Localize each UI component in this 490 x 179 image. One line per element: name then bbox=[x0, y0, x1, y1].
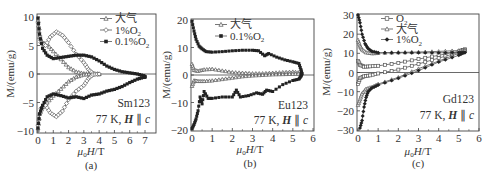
legend-item: 1%O2 bbox=[381, 33, 423, 48]
chart-panel-b: 012345620100−10−20 大气0.1%O2 Eu123 77 K, … bbox=[160, 14, 316, 170]
panel-label-b: (b) bbox=[244, 157, 257, 170]
legend-label: 大气 bbox=[230, 17, 252, 30]
y-tick-label: −10 bbox=[337, 86, 355, 98]
x-tick-label: 5 bbox=[290, 132, 296, 144]
x-tick-label: 1 bbox=[51, 134, 57, 146]
x-tick-label: 2 bbox=[230, 132, 236, 144]
sample-label-a: Sm123 bbox=[117, 97, 150, 109]
sample-label-b: Eu123 bbox=[278, 99, 308, 111]
x-axis-label-a: μ0H/T bbox=[77, 145, 105, 159]
y-tick-label: −5 bbox=[22, 97, 34, 109]
legend-label: 1%O2 bbox=[396, 33, 423, 48]
chart-panel-a: 012345671050−5−10 大气1%O20.1%O2 Sm123 77 … bbox=[4, 11, 156, 172]
sample-label-c: Gd123 bbox=[443, 93, 475, 105]
x-axis-label-b: μ0H/T bbox=[236, 143, 264, 157]
legend-item: 0.1%O2 bbox=[100, 35, 150, 50]
legend-label: 0.1%O2 bbox=[115, 35, 150, 50]
y-tick-label: −20 bbox=[171, 124, 189, 136]
y-tick-label: 0 bbox=[349, 67, 355, 79]
y-tick-label: 20 bbox=[343, 28, 355, 40]
y-tick-label: −10 bbox=[17, 125, 35, 137]
y-tick-label: 30 bbox=[343, 9, 355, 21]
x-tick-label: 6 bbox=[310, 132, 316, 144]
x-tick-label: 1 bbox=[209, 132, 215, 144]
x-tick-label: 0 bbox=[189, 132, 195, 144]
condition-label-b: 77 K, H ∥ c bbox=[254, 114, 308, 127]
x-tick-label: 0 bbox=[355, 132, 361, 144]
y-tick-label: −10 bbox=[171, 97, 189, 109]
y-tick-label: 20 bbox=[177, 14, 189, 26]
y-axis-label-a: M/(emu/g) bbox=[4, 50, 17, 98]
legend-b: 大气0.1%O2 bbox=[215, 17, 265, 44]
x-tick-label: 4 bbox=[436, 132, 442, 144]
legend-a: 大气1%O20.1%O2 bbox=[100, 11, 150, 50]
panel-label-a: (a) bbox=[85, 159, 98, 172]
x-tick-label: 4 bbox=[270, 132, 276, 144]
chart-panel-c: 01234563020100−10−20−30 O2大气1%O2 Gd123 7… bbox=[320, 9, 482, 170]
x-tick-label: 3 bbox=[416, 132, 422, 144]
legend-label: 大气 bbox=[115, 11, 137, 24]
y-axis-label-c: M/(emu/g) bbox=[320, 48, 333, 96]
y-tick-label: 0 bbox=[29, 68, 35, 80]
figure-canvas: 012345671050−5−10 大气1%O20.1%O2 Sm123 77 … bbox=[0, 0, 490, 179]
x-tick-label: 5 bbox=[112, 134, 118, 146]
x-tick-label: 2 bbox=[66, 134, 72, 146]
x-tick-label: 1 bbox=[375, 132, 381, 144]
legend-c: O2大气1%O2 bbox=[381, 12, 423, 48]
y-tick-label: 10 bbox=[177, 42, 189, 54]
y-tick-label: 0 bbox=[183, 69, 189, 81]
y-tick-label: 10 bbox=[23, 11, 35, 23]
legend-label: 0.1%O2 bbox=[230, 30, 265, 45]
condition-label-a: 77 K, H ∥ c bbox=[96, 113, 150, 126]
y-axis-label-b: M/(emu/g) bbox=[160, 51, 173, 99]
y-tick-label: 10 bbox=[343, 47, 355, 59]
legend-item: 大气 bbox=[100, 11, 137, 24]
legend-item: 0.1%O2 bbox=[215, 30, 265, 45]
x-tick-label: 5 bbox=[456, 132, 462, 144]
y-tick-label: −20 bbox=[337, 105, 355, 117]
x-tick-label: 6 bbox=[127, 134, 133, 146]
y-tick-label: −30 bbox=[337, 124, 355, 136]
panel-label-c: (c) bbox=[412, 157, 425, 170]
y-tick-label: 5 bbox=[29, 40, 35, 52]
x-tick-label: 2 bbox=[396, 132, 402, 144]
x-tick-label: 0 bbox=[35, 134, 41, 146]
x-tick-label: 6 bbox=[476, 132, 482, 144]
condition-label-c: 77 K, H ∥ c bbox=[420, 109, 474, 122]
x-tick-label: 7 bbox=[142, 134, 148, 146]
